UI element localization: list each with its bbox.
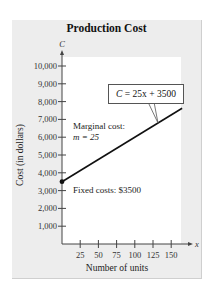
cost-line xyxy=(62,108,182,181)
x-axis-label: Number of units xyxy=(86,263,148,273)
equation-pointer xyxy=(148,102,158,123)
y-tick-label: 6,000 xyxy=(38,132,57,142)
slope-label: m = 25 xyxy=(73,132,125,143)
chart-svg: Cx 1,0002,0003,0004,0005,0006,0007,0008,… xyxy=(0,0,211,289)
x-tick-label: 150 xyxy=(165,250,178,260)
marginal-cost-label: Marginal cost: xyxy=(73,121,125,132)
y-axis-symbol: C xyxy=(59,39,65,49)
y-tick-label: 8,000 xyxy=(38,97,57,107)
y-tick-label: 1,000 xyxy=(38,221,57,231)
x-tick-label: 75 xyxy=(112,250,121,260)
x-tick-label: 100 xyxy=(128,250,141,260)
x-axis-symbol: x xyxy=(194,239,199,249)
x-tick-label: 50 xyxy=(94,250,103,260)
y-axis-label: Cost (in dollars) xyxy=(15,124,25,186)
x-tick-label: 125 xyxy=(147,250,160,260)
y-tick-label: 2,000 xyxy=(38,203,57,213)
fixed-cost-point xyxy=(60,179,65,184)
marginal-cost-annotation: Marginal cost: m = 25 xyxy=(73,121,125,143)
y-tick-label: 10,000 xyxy=(34,61,57,71)
y-tick-label: 5,000 xyxy=(38,150,57,160)
y-tick-label: 4,000 xyxy=(38,168,57,178)
equation-box: C = 25x + 3500 xyxy=(108,84,184,104)
y-axis-arrow-icon xyxy=(60,50,64,55)
x-tick-label: 25 xyxy=(76,250,85,260)
series xyxy=(60,102,183,184)
y-tick-label: 9,000 xyxy=(38,79,57,89)
y-tick-label: 7,000 xyxy=(38,114,57,124)
fixed-costs-annotation: Fixed costs: $3500 xyxy=(73,185,141,196)
axes: Cx xyxy=(59,39,199,249)
y-tick-label: 3,000 xyxy=(38,186,57,196)
x-axis-arrow-icon xyxy=(188,242,193,246)
equation-rhs: = 25x + 3500 xyxy=(122,89,175,99)
